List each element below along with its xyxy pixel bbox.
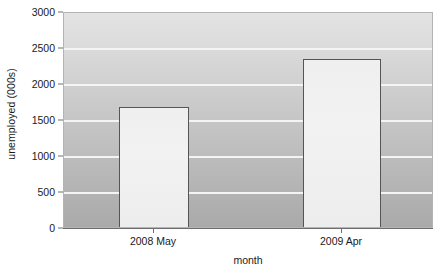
- y-axis-tick-label: 2000: [32, 78, 55, 90]
- y-axis: 050010001500200025003000: [22, 0, 63, 276]
- y-axis-tick-label: 1000: [32, 150, 55, 162]
- bar: [303, 59, 381, 227]
- bar: [119, 107, 189, 227]
- x-axis-tick-mark: [153, 228, 154, 233]
- bar-chart-figure: unemployed (000s) 0500100015002000250030…: [0, 0, 441, 276]
- y-axis-tick-label: 0: [49, 222, 55, 234]
- gridline: [64, 48, 432, 50]
- x-axis-tick-mark: [341, 228, 342, 233]
- y-axis-tick-label: 3000: [32, 6, 55, 18]
- x-axis-tick-label: 2008 May: [130, 235, 176, 247]
- x-axis-tick-label: 2009 Apr: [320, 235, 362, 247]
- y-axis-tick-label: 500: [37, 186, 55, 198]
- y-axis-title: unemployed (000s): [0, 0, 22, 228]
- plot-area: [63, 12, 433, 228]
- y-axis-tick-label: 1500: [32, 114, 55, 126]
- x-axis-line: [63, 228, 433, 229]
- y-axis-tick-label: 2500: [32, 42, 55, 54]
- y-axis-title-text: unemployed (000s): [5, 68, 17, 160]
- x-axis-title: month: [63, 254, 433, 266]
